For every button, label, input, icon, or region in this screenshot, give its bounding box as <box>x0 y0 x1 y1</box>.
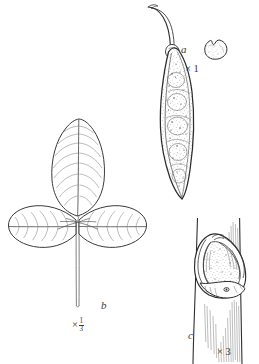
scale-multiplier-sign-b: × <box>72 319 78 330</box>
figure-label-c: c <box>188 330 193 341</box>
scale-caption-c: × 3 <box>217 347 231 358</box>
figure-label-a: a <box>181 44 187 55</box>
scale-caption-a: × 1 <box>185 64 199 75</box>
seed <box>205 40 227 59</box>
scale-denominator-b: 3 <box>79 326 84 334</box>
scale-caption-b: ×13 <box>72 318 84 334</box>
figure-label-b: b <box>101 300 107 311</box>
figure-c-bud-on-stem <box>193 218 246 364</box>
scale-fraction-b: 13 <box>79 318 84 334</box>
botanical-plate <box>0 0 259 364</box>
